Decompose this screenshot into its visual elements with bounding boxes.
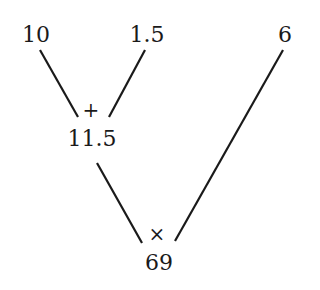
edge-sum-to-product [97,163,142,243]
times-operator-icon: × [149,224,166,244]
node-label-product: 69 [145,252,173,274]
edge-1.5-to-sum [109,50,145,117]
leaf-label-6: 6 [278,24,292,46]
leaf-label-1.5: 1.5 [130,24,165,46]
edge-6-to-product [175,50,283,241]
node-label-sum: 11.5 [68,128,117,150]
leaf-label-10: 10 [22,24,50,46]
edge-10-to-sum [40,50,78,117]
plus-operator-icon: + [83,100,100,120]
